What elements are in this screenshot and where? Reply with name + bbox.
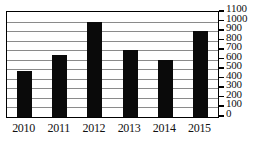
plot-area (6, 11, 219, 118)
y-tick-mark (219, 39, 224, 41)
y-tick-mark (219, 58, 224, 60)
y-tick-label: 900 (226, 22, 242, 33)
bar-chart: 010020030040050060070080090010001100 201… (0, 0, 258, 145)
x-axis: 201020112012201320142015 (6, 121, 219, 143)
bar-series (7, 12, 218, 117)
y-tick-mark (219, 20, 224, 22)
y-tick-label: 500 (226, 60, 242, 71)
y-tick-label: 300 (226, 79, 242, 90)
y-tick-label: 800 (226, 32, 242, 43)
y-tick-mark (219, 29, 224, 31)
y-tick-label: 100 (226, 98, 242, 109)
y-tick-label: 0 (226, 108, 231, 119)
y-tick-mark (219, 77, 224, 79)
bar-2010 (17, 71, 32, 117)
y-tick-mark (219, 86, 224, 88)
y-tick-mark (219, 10, 224, 12)
y-tick-label: 1000 (226, 13, 247, 24)
x-tick-label-2015: 2015 (182, 121, 217, 135)
y-tick-label: 700 (226, 41, 242, 52)
y-tick-mark (219, 115, 224, 117)
y-tick-label: 600 (226, 51, 242, 62)
y-tick-mark (219, 96, 224, 98)
y-tick-label: 200 (226, 89, 242, 100)
y-tick-mark (219, 48, 224, 50)
y-tick-label: 1100 (226, 3, 247, 14)
bar-2013 (123, 50, 138, 117)
x-tick-label-2010: 2010 (6, 121, 41, 135)
x-tick-label-2014: 2014 (147, 121, 182, 135)
x-tick-label-2013: 2013 (112, 121, 147, 135)
y-tick-label: 400 (226, 70, 242, 81)
bar-2015 (193, 31, 208, 117)
y-tick-mark (219, 105, 224, 107)
x-tick-label-2011: 2011 (41, 121, 76, 135)
x-tick-label-2012: 2012 (76, 121, 111, 135)
y-axis: 010020030040050060070080090010001100 (219, 11, 258, 118)
bar-2012 (87, 22, 102, 117)
y-tick-mark (219, 67, 224, 69)
bar-2011 (52, 55, 67, 117)
bar-2014 (158, 60, 173, 117)
